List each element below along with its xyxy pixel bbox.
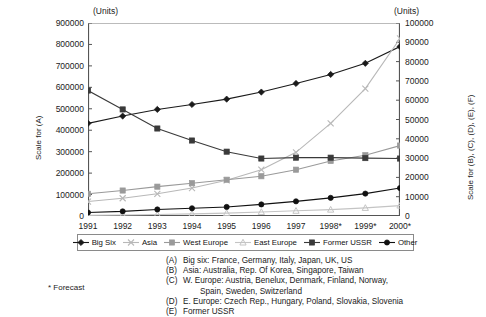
x-tick-label: 1995 bbox=[208, 221, 246, 231]
legend-marker-triangle-icon bbox=[234, 238, 252, 247]
note-key: (B) bbox=[166, 266, 183, 276]
left-tick-label: 500000 bbox=[30, 104, 84, 114]
legend-label: Other bbox=[398, 238, 420, 247]
note-continuation: Spain, Sweden, Switzerland bbox=[166, 287, 403, 297]
left-tick-label: 0 bbox=[30, 211, 84, 221]
left-tick-label: 100000 bbox=[30, 190, 84, 200]
right-axis-title: Scale for (B), (C), (D), (E), (F) bbox=[466, 95, 475, 200]
legend-label: Former USSR bbox=[323, 238, 374, 247]
legend-item-former-ussr[interactable]: Former USSR bbox=[303, 238, 374, 247]
note-key: (A) bbox=[166, 256, 183, 266]
legend-item-east-europe[interactable]: East Europe bbox=[234, 238, 299, 247]
left-units-label: (Units) bbox=[93, 6, 118, 16]
x-tick-label: 1998* bbox=[312, 221, 350, 231]
note-row: (A)Big six: France, Germany, Italy, Japa… bbox=[166, 256, 403, 266]
left-tick-label: 900000 bbox=[30, 18, 84, 28]
right-tick-label: 80000 bbox=[405, 57, 465, 67]
note-text: E. Europe: Czech Rep., Hungary, Poland, … bbox=[183, 297, 403, 307]
right-tick-label: 70000 bbox=[405, 76, 465, 86]
note-key: (C) bbox=[166, 276, 183, 286]
legend-label: Asia bbox=[142, 238, 159, 247]
note-text: Big six: France, Germany, Italy, Japan, … bbox=[183, 256, 352, 266]
note-row: (C)W. Europe: Austria, Benelux, Denmark,… bbox=[166, 276, 403, 286]
legend-marker-square-icon bbox=[163, 238, 181, 247]
legend-label: West Europe bbox=[183, 238, 230, 247]
notes-block: (A)Big six: France, Germany, Italy, Japa… bbox=[166, 256, 403, 317]
plot-svg bbox=[88, 23, 400, 216]
right-tick-label: 20000 bbox=[405, 172, 465, 182]
x-tick-label: 1992 bbox=[104, 221, 142, 231]
left-tick-label: 800000 bbox=[30, 39, 84, 49]
right-tick-label: 30000 bbox=[405, 153, 465, 163]
left-tick-label: 700000 bbox=[30, 61, 84, 71]
note-row: (E)Former USSR bbox=[166, 307, 403, 317]
left-tick-label: 400000 bbox=[30, 125, 84, 135]
right-tick-label: 100000 bbox=[405, 18, 465, 28]
note-text: Former USSR bbox=[183, 307, 234, 317]
left-tick-label: 300000 bbox=[30, 147, 84, 157]
right-tick-label: 60000 bbox=[405, 95, 465, 105]
forecast-footnote: * Forecast bbox=[48, 283, 84, 292]
note-text: Asia: Australia, Rep. Of Korea, Singapor… bbox=[183, 266, 364, 276]
x-tick-label: 1996 bbox=[242, 221, 280, 231]
right-tick-label: 10000 bbox=[405, 192, 465, 202]
note-key: (D) bbox=[166, 297, 183, 307]
legend-item-asia[interactable]: Asia bbox=[122, 238, 159, 247]
note-text: W. Europe: Austria, Benelux, Denmark, Fi… bbox=[183, 276, 388, 286]
legend-marker-square-icon bbox=[303, 238, 321, 247]
right-tick-label: 90000 bbox=[405, 37, 465, 47]
x-tick-label: 2000* bbox=[381, 221, 419, 231]
chart-figure: (Units) (Units) Scale for (A) Scale for … bbox=[0, 0, 486, 317]
legend-item-west-europe[interactable]: West Europe bbox=[163, 238, 230, 247]
right-units-label: (Units) bbox=[394, 6, 419, 16]
left-tick-label: 200000 bbox=[30, 168, 84, 178]
right-tick-label: 50000 bbox=[405, 115, 465, 125]
x-tick-label: 1999* bbox=[346, 221, 384, 231]
legend-item-other[interactable]: Other bbox=[378, 238, 420, 247]
legend-marker-diamond-icon bbox=[72, 238, 90, 247]
legend-label: Big Six bbox=[92, 238, 118, 247]
left-tick-label: 600000 bbox=[30, 82, 84, 92]
x-tick-label: 1994 bbox=[173, 221, 211, 231]
x-tick-label: 1993 bbox=[138, 221, 176, 231]
note-row: (D)E. Europe: Czech Rep., Hungary, Polan… bbox=[166, 297, 403, 307]
legend-marker-cross-icon bbox=[122, 238, 140, 247]
right-tick-label: 40000 bbox=[405, 134, 465, 144]
legend-label: East Europe bbox=[254, 238, 299, 247]
legend-marker-circle-icon bbox=[378, 238, 396, 247]
x-tick-label: 1991 bbox=[69, 221, 107, 231]
right-tick-label: 0 bbox=[405, 211, 465, 221]
plot-area bbox=[88, 23, 400, 216]
x-tick-label: 1997 bbox=[277, 221, 315, 231]
note-key: (E) bbox=[166, 307, 183, 317]
note-row: (B)Asia: Australia, Rep. Of Korea, Singa… bbox=[166, 266, 403, 276]
chart-legend: Big SixAsiaWest EuropeEast EuropeFormer … bbox=[77, 234, 414, 251]
legend-item-big-six[interactable]: Big Six bbox=[72, 238, 118, 247]
